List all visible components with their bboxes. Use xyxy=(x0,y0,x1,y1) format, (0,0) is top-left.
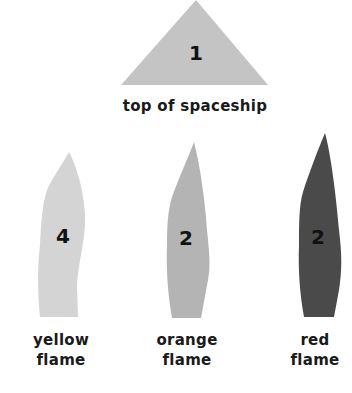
yellow-flame-label-line2: flame xyxy=(33,350,89,370)
red-flame-label-line2: flame xyxy=(290,350,339,370)
orange-flame-count: 2 xyxy=(179,228,193,248)
red-flame-label: red flame xyxy=(290,330,339,370)
top-of-spaceship-count: 1 xyxy=(189,43,203,63)
top-of-spaceship-label: top of spaceship xyxy=(123,96,268,116)
orange-flame-label-line2: flame xyxy=(156,350,217,370)
red-flame-label-line1: red xyxy=(290,330,339,350)
red-flame-count: 2 xyxy=(311,227,325,247)
yellow-flame-count: 4 xyxy=(56,226,70,246)
yellow-flame-label: yellow flame xyxy=(33,330,89,370)
orange-flame-label: orange flame xyxy=(156,330,217,370)
orange-flame-label-line1: orange xyxy=(156,330,217,350)
yellow-flame-label-line1: yellow xyxy=(33,330,89,350)
